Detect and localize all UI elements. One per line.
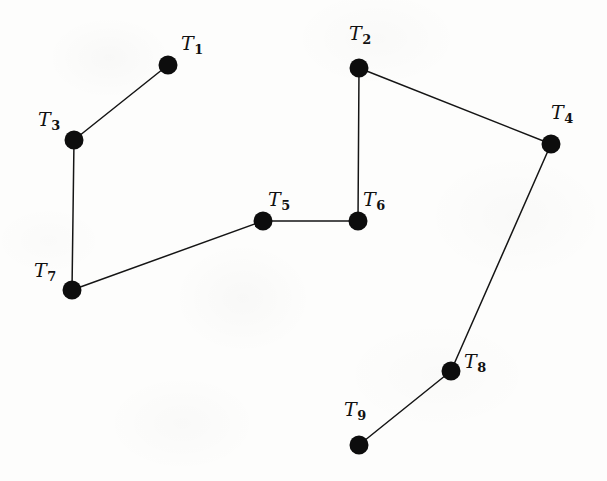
vertex-label-t7: T7 xyxy=(34,261,56,284)
vertex-label-subscript: 3 xyxy=(51,118,60,133)
graph-vertex-t1[interactable] xyxy=(159,56,178,75)
graph-edge xyxy=(72,140,74,290)
vertex-label-base: T xyxy=(363,188,376,210)
graph-vertex-t4[interactable] xyxy=(542,135,561,154)
graph-vertex-t8[interactable] xyxy=(442,362,461,381)
graph-vertex-t5[interactable] xyxy=(254,212,273,231)
vertex-label-base: T xyxy=(38,108,51,130)
vertex-label-subscript: 4 xyxy=(564,111,573,126)
diagram-canvas: T1T2T3T4T5T6T7T8T9 xyxy=(0,0,607,481)
vertex-label-t8: T8 xyxy=(464,352,486,375)
vertex-label-base: T xyxy=(181,32,194,54)
graph-svg xyxy=(0,0,607,481)
graph-edge xyxy=(74,65,168,140)
vertex-label-subscript: 1 xyxy=(194,42,203,57)
vertex-label-t4: T4 xyxy=(551,103,573,126)
vertex-label-base: T xyxy=(349,22,362,44)
vertex-label-t3: T3 xyxy=(38,110,60,133)
graph-edge xyxy=(359,371,451,445)
graph-edge xyxy=(72,221,263,290)
vertex-label-subscript: 8 xyxy=(477,360,486,375)
vertex-label-t1: T1 xyxy=(181,34,203,57)
vertex-label-subscript: 9 xyxy=(357,408,366,423)
vertex-label-t9: T9 xyxy=(344,400,366,423)
vertex-label-base: T xyxy=(551,101,564,123)
vertex-label-t5: T5 xyxy=(268,190,290,213)
graph-vertex-t7[interactable] xyxy=(63,281,82,300)
vertex-label-base: T xyxy=(344,398,357,420)
graph-edge xyxy=(358,68,359,221)
vertex-label-base: T xyxy=(464,350,477,372)
vertex-label-subscript: 6 xyxy=(376,198,385,213)
vertex-layer xyxy=(63,56,561,455)
vertex-label-subscript: 2 xyxy=(362,32,371,47)
vertex-label-subscript: 5 xyxy=(281,198,290,213)
vertex-label-base: T xyxy=(268,188,281,210)
vertex-label-subscript: 7 xyxy=(47,269,56,284)
graph-vertex-t2[interactable] xyxy=(350,59,369,78)
graph-vertex-t3[interactable] xyxy=(65,131,84,150)
vertex-label-base: T xyxy=(34,259,47,281)
vertex-label-t2: T2 xyxy=(349,24,371,47)
graph-vertex-t6[interactable] xyxy=(349,212,368,231)
edge-layer xyxy=(72,65,551,445)
vertex-label-t6: T6 xyxy=(363,190,385,213)
graph-edge xyxy=(359,68,551,144)
graph-edge xyxy=(451,144,551,371)
graph-vertex-t9[interactable] xyxy=(350,436,369,455)
